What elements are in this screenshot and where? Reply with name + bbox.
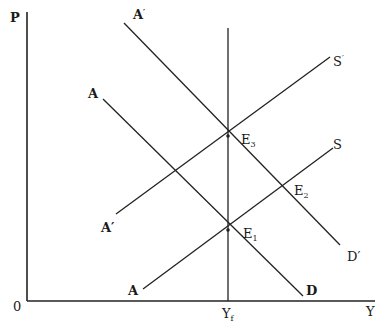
supply-curve [143,148,333,289]
shifted-demand-end-label: D′ [347,249,360,264]
shifted-demand-start-label: A′ [132,6,145,22]
equilibrium-e3-point [226,134,230,138]
e2-main: E [294,183,304,198]
equilibrium-e3-label: E3 [241,132,256,149]
origin-label: 0 [13,299,21,314]
yf-subscript: f [231,314,235,323]
shifted-supply-end-label: S′ [333,53,344,69]
e1-subscript: 1 [253,234,258,243]
demand-end-label: D [306,283,317,298]
shifted-demand-curve [124,23,340,245]
aggregate-demand-supply-diagram: P 0 Y Yf A′ D′ A D A′ S′ A S E3 E1 E2 [0,0,386,325]
e1-main: E [243,226,253,241]
shifted-supply-start-label: A′ [100,220,115,235]
price-axis-label: P [10,10,20,25]
e3-main: E [241,132,251,147]
demand-start-label: A [87,86,99,101]
ad-shifted-prime: ′ [143,6,145,16]
demand-curve [103,99,303,296]
equilibrium-e2-label: E2 [294,183,309,200]
supply-start-label: A [127,283,139,298]
output-axis-label: Y [365,304,375,319]
yf-main: Y [221,306,231,321]
equilibrium-e1-label: E1 [243,226,258,243]
e3-subscript: 3 [251,140,256,149]
as-shifted-prime: ′ [342,53,344,62]
supply-end-label: S [333,137,342,152]
equilibrium-e1-point [226,228,230,232]
full-employment-label: Yf [221,306,235,323]
e2-subscript: 2 [304,191,309,200]
as-shifted-s: S [333,54,342,69]
